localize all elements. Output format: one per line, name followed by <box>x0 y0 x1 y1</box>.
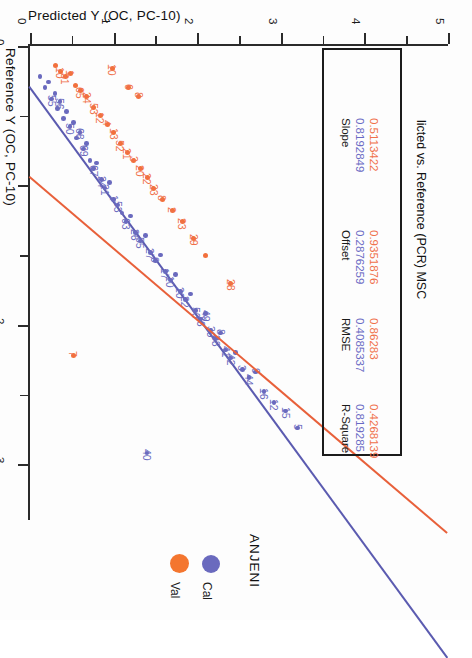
table-cell: 0.2876259 <box>354 230 366 284</box>
x-tick <box>197 33 199 44</box>
data-point-label: 15 <box>280 407 292 419</box>
data-point-label: 29 <box>188 234 200 246</box>
data-point <box>61 116 66 121</box>
x-tick <box>114 33 116 44</box>
table-cell: 0.9351876 <box>368 230 380 284</box>
x-tick <box>155 36 157 44</box>
data-point-label: 8 <box>133 92 145 98</box>
y-tick <box>20 116 28 118</box>
data-point <box>46 80 51 85</box>
data-point-label: 63 <box>120 218 132 230</box>
data-point-label: 3 <box>236 365 248 371</box>
data-point-label: 28 <box>225 279 237 291</box>
data-point-label: 9 <box>149 257 161 263</box>
data-point-label: 40 <box>141 449 153 461</box>
chart-title: licted vs. Reference (PCR) MSC <box>414 120 428 299</box>
table-cell: 0.4268139 <box>368 404 380 458</box>
data-point-label: 2 <box>166 207 178 213</box>
data-point-label: 13 <box>108 128 120 140</box>
y-tick <box>18 464 28 466</box>
data-point-label: 3 <box>128 156 140 162</box>
data-point <box>143 233 148 238</box>
legend-label-val: Val <box>168 582 182 598</box>
x-tick-label: 5 <box>434 18 446 24</box>
data-point-label: 12 <box>268 399 280 411</box>
y-tick <box>20 255 28 257</box>
x-tick-label: 2 <box>183 18 195 24</box>
data-point <box>188 292 193 297</box>
table-header-slope: Slope <box>340 118 352 147</box>
data-point-label: 68 <box>74 128 86 140</box>
x-tick <box>323 36 325 44</box>
data-point <box>158 253 163 258</box>
table-cell: 0.819285 <box>354 404 366 452</box>
data-point <box>64 109 69 114</box>
table-header-r-square: R-Square <box>340 404 352 453</box>
x-tick-label: 3 <box>267 18 279 24</box>
data-point-label: 42 <box>225 354 237 366</box>
y-tick-label: 2 <box>0 318 6 324</box>
legend-swatch-val <box>170 554 189 573</box>
table-cell: 0.86283 <box>368 318 380 360</box>
legend-title: ANJENI <box>247 534 262 588</box>
legend: ANJENI Val Cal <box>150 520 300 616</box>
y-tick-label: 0 <box>0 39 6 45</box>
legend-swatch-cal <box>202 555 220 573</box>
data-point-label: 16 <box>258 388 270 400</box>
y-tick-label: 3 <box>0 457 6 463</box>
legend-label-cal: Cal <box>200 582 214 600</box>
table-header-rmse: RMSE <box>340 318 352 351</box>
data-point <box>84 141 89 146</box>
data-point-label: 4 <box>101 120 113 126</box>
y-tick <box>18 46 28 48</box>
data-point-label: 67 <box>88 165 100 177</box>
data-point-label: 22 <box>141 173 153 185</box>
y-tick <box>18 185 28 187</box>
data-point <box>43 85 48 90</box>
data-point <box>173 272 178 277</box>
data-point-label: 56 <box>54 98 66 110</box>
data-point <box>203 253 208 258</box>
data-point-label: 8 <box>156 195 168 201</box>
data-point-label: 23 <box>176 218 188 230</box>
x-tick <box>448 33 450 44</box>
x-tick <box>281 33 283 44</box>
data-point <box>128 214 133 219</box>
x-tick <box>239 36 241 44</box>
data-point-label: 7 <box>67 351 79 357</box>
table-cell: 0.5113422 <box>368 118 380 172</box>
table-cell: 0.8192849 <box>354 118 366 172</box>
x-tick <box>30 33 32 44</box>
data-point-label: 69 <box>78 145 90 157</box>
data-point <box>53 91 58 96</box>
x-tick <box>406 36 408 44</box>
y-tick <box>20 395 28 397</box>
table-cell: 0.4085337 <box>354 318 366 372</box>
data-point <box>107 180 112 185</box>
data-point <box>38 74 43 79</box>
data-point-label: 49 <box>200 310 212 322</box>
data-point-label: 44 <box>243 374 255 386</box>
data-point-label: 10 <box>106 64 118 76</box>
y-tick <box>18 325 28 327</box>
table-header-offset: Offset <box>340 230 352 260</box>
x-tick-label: 4 <box>350 18 362 24</box>
data-point-label: 6 <box>123 84 135 90</box>
x-tick <box>72 36 74 44</box>
data-point-label: 5 <box>292 424 304 430</box>
data-point <box>71 120 76 125</box>
x-axis-title: Predicted Y (OC, PC-10) <box>28 8 181 23</box>
x-tick <box>364 33 366 44</box>
data-point <box>88 158 93 163</box>
y-axis-title: Reference Y (OC, PC-10) <box>3 48 18 206</box>
data-point-label: 1 <box>64 70 76 76</box>
x-tick-label: 0 <box>16 18 28 24</box>
